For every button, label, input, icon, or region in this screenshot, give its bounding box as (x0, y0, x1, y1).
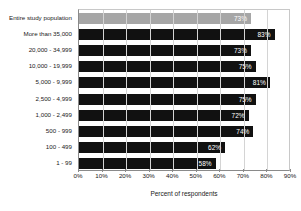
x-tick-label: 0% (74, 172, 83, 179)
bar-value-label: 75% (239, 94, 252, 105)
bar-value-label: 81% (253, 77, 266, 88)
category-label: 20,000 - 34,999 (29, 44, 72, 55)
bar-row: 75% (79, 61, 289, 72)
bar-value-label: 73% (234, 13, 247, 24)
x-tick-label: 10% (95, 172, 107, 179)
bar: 75% (79, 94, 256, 105)
category-label: 1,000 - 2,499 (36, 109, 72, 120)
bar-row: 75% (79, 94, 289, 105)
gridline (126, 10, 127, 170)
bar-row: 74% (79, 126, 289, 137)
bar-value-label: 83% (257, 29, 270, 40)
bar-value-label: 74% (236, 126, 249, 137)
gridline (150, 10, 151, 170)
category-label: 100 - 499 (46, 141, 72, 152)
x-tick-label: 40% (166, 172, 178, 179)
bar: 73% (79, 13, 251, 24)
bar-row: 72% (79, 110, 289, 121)
bar-row: 62% (79, 142, 289, 153)
x-tick-label: 60% (213, 172, 225, 179)
bar-value-label: 72% (232, 110, 245, 121)
x-axis-tick-labels: 0%10%20%30%40%50%60%70%80%90% (78, 172, 290, 184)
category-label: 1 - 99 (56, 157, 72, 168)
category-label: 2,500 - 4,999 (36, 93, 72, 104)
bar: 74% (79, 126, 253, 137)
bar-row: 73% (79, 45, 289, 56)
bar-value-label: 58% (199, 158, 212, 169)
category-label: 10,000 - 19,999 (29, 60, 72, 71)
gridline (267, 10, 268, 170)
category-label: More than 35,000 (23, 28, 72, 39)
bar: 75% (79, 61, 256, 72)
plot-area: 73%83%73%75%81%75%72%74%62%58% (78, 9, 290, 171)
category-label: 500 - 999 (46, 125, 72, 136)
category-label: Entire study population (9, 12, 72, 23)
x-tick-label: 30% (142, 172, 154, 179)
bar-value-label: 73% (234, 45, 247, 56)
gridline (103, 10, 104, 170)
x-tick-label: 80% (260, 172, 272, 179)
bar-row: 73% (79, 13, 289, 24)
bar-value-label: 75% (239, 61, 252, 72)
category-label: 5,000 - 9,999 (36, 76, 72, 87)
bar-value-label: 62% (208, 142, 221, 153)
x-tick-label: 90% (284, 172, 296, 179)
gridline (244, 10, 245, 170)
bar-row: 83% (79, 29, 289, 40)
gridline (197, 10, 198, 170)
bar-row: 58% (79, 158, 289, 169)
x-tick-label: 70% (237, 172, 249, 179)
x-tick-label: 20% (119, 172, 131, 179)
bar: 58% (79, 158, 216, 169)
x-axis-title: Percent of respondents (78, 190, 290, 197)
bar-chart: Entire study populationMore than 35,0002… (0, 0, 301, 211)
bar: 83% (79, 29, 275, 40)
x-tick-label: 50% (190, 172, 202, 179)
bar: 73% (79, 45, 251, 56)
bar: 81% (79, 77, 270, 88)
bar-row: 81% (79, 77, 289, 88)
bar: 72% (79, 110, 249, 121)
y-axis-category-labels: Entire study populationMore than 35,0002… (0, 9, 75, 171)
gridline (220, 10, 221, 170)
bars-container: 73%83%73%75%81%75%72%74%62%58% (79, 10, 289, 170)
bar: 62% (79, 142, 225, 153)
gridline (173, 10, 174, 170)
